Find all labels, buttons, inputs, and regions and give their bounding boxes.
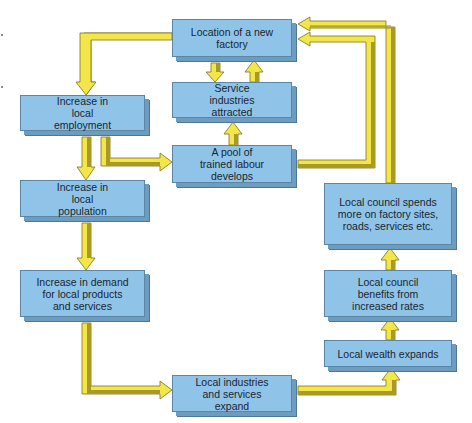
arrow-benefits-to-spends <box>381 248 399 270</box>
arrow-factory-to-service <box>206 63 224 82</box>
arrow-labour-to-factory <box>298 32 375 168</box>
arrow-employment-to-population <box>77 137 95 180</box>
node-demand: Increase in demand for local products an… <box>20 270 145 317</box>
node-factory-label: Location of a new factory <box>181 26 283 50</box>
arrow-population-to-demand <box>77 223 95 270</box>
node-trained-labour: A pool of trained labour develops <box>172 145 292 183</box>
node-local-industries-label: Local industries and services expand <box>193 376 271 412</box>
node-local-population-label: Increase in local population <box>47 181 118 217</box>
node-local-employment: Increase in local employment <box>20 95 145 131</box>
node-wealth-expands: Local wealth expands <box>324 340 452 367</box>
node-local-industries: Local industries and services expand <box>172 375 292 412</box>
node-factory: Location of a new factory <box>172 19 292 57</box>
margin-mark <box>1 34 3 36</box>
arrow-wealth-to-benefits <box>381 318 399 340</box>
node-wealth-expands-label: Local wealth expands <box>338 348 439 360</box>
arrow-service-to-factory <box>245 60 263 82</box>
node-local-employment-label: Increase in local employment <box>47 95 118 131</box>
node-council-benefits: Local council benefits from increased ra… <box>324 270 452 317</box>
node-service-industries: Service industries attracted <box>172 82 292 118</box>
arrow-industries-to-wealth <box>298 368 400 395</box>
arrow-demand-to-industries <box>82 323 172 399</box>
node-council-benefits-label: Local council benefits from increased ra… <box>339 276 437 312</box>
node-trained-labour-label: A pool of trained labour develops <box>197 146 267 182</box>
margin-mark <box>1 86 3 88</box>
node-local-population: Increase in local population <box>20 180 145 217</box>
node-council-spends: Local council spends more on factory sit… <box>324 183 452 245</box>
flow-diagram: Location of a new factory Service indust… <box>0 0 472 423</box>
node-demand-label: Increase in demand for local products an… <box>35 276 130 312</box>
arrow-employment-to-labour <box>101 137 172 171</box>
arrow-labour-to-service <box>224 122 242 145</box>
arrow-factory-to-employment <box>76 33 172 95</box>
node-service-industries-label: Service industries attracted <box>195 82 269 118</box>
node-council-spends-label: Local council spends more on factory sit… <box>333 196 443 232</box>
